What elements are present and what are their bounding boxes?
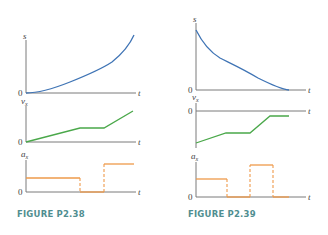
ax-axis-label: ax — [191, 151, 199, 162]
acceleration-step-line — [196, 165, 289, 197]
t-axis-label: t — [308, 106, 311, 116]
origin-label: 0 — [188, 192, 193, 202]
velocity-line — [26, 111, 133, 142]
position-panel-p2-39: s 0 t — [188, 14, 311, 95]
origin-label: 0 — [18, 187, 23, 197]
figure-p2-38: s 0 t vx 0 t ax 0 t — [18, 31, 141, 197]
velocity-panel-p2-39: vx 0 t — [188, 92, 311, 148]
t-axis-label: t — [138, 88, 141, 98]
velocity-panel-p2-38: vx 0 t — [18, 96, 141, 147]
position-curve — [196, 30, 289, 90]
origin-label: 0 — [188, 106, 193, 116]
s-axis-label: s — [23, 31, 27, 41]
origin-label: 0 — [18, 137, 23, 147]
t-axis-label: t — [138, 187, 141, 197]
velocity-line — [196, 116, 289, 143]
vx-axis-label: vx — [21, 96, 28, 107]
s-axis-label: s — [193, 14, 197, 24]
ax-axis-label: ax — [21, 149, 29, 160]
vx-axis-label: vx — [192, 92, 199, 103]
acceleration-step-line — [26, 164, 134, 192]
acceleration-panel-p2-39: ax 0 t — [188, 151, 311, 202]
t-axis-label: t — [308, 85, 311, 95]
t-axis-label: t — [138, 137, 141, 147]
acceleration-panel-p2-38: ax 0 t — [18, 149, 141, 197]
figure-caption-p2-39: FIGURE P2.39 — [188, 209, 256, 219]
position-curve — [26, 35, 134, 93]
kinematics-figures: s 0 t vx 0 t ax 0 t — [0, 0, 328, 235]
position-panel-p2-38: s 0 t — [18, 31, 141, 98]
t-axis-label: t — [308, 192, 311, 202]
figure-caption-p2-38: FIGURE P2.38 — [17, 209, 85, 219]
figure-p2-39: s 0 t vx 0 t ax 0 t — [188, 14, 311, 202]
